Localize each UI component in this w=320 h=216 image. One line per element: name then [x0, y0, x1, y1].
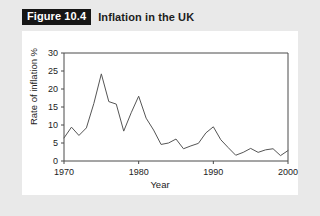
plot-svg: [22, 31, 298, 195]
figure-number-badge: Figure 10.4: [22, 9, 91, 25]
inflation-data-line: [64, 74, 288, 156]
figure-title: Inflation in the UK: [98, 11, 194, 23]
line-chart: Rate of inflation % Year 051015202530 19…: [22, 31, 298, 195]
axis-tick-marks: [61, 53, 288, 164]
figure-header: Figure 10.4 Inflation in the UK: [22, 9, 194, 25]
chart-panel: Rate of inflation % Year 051015202530 19…: [22, 31, 298, 195]
axis-frame: [64, 53, 288, 161]
